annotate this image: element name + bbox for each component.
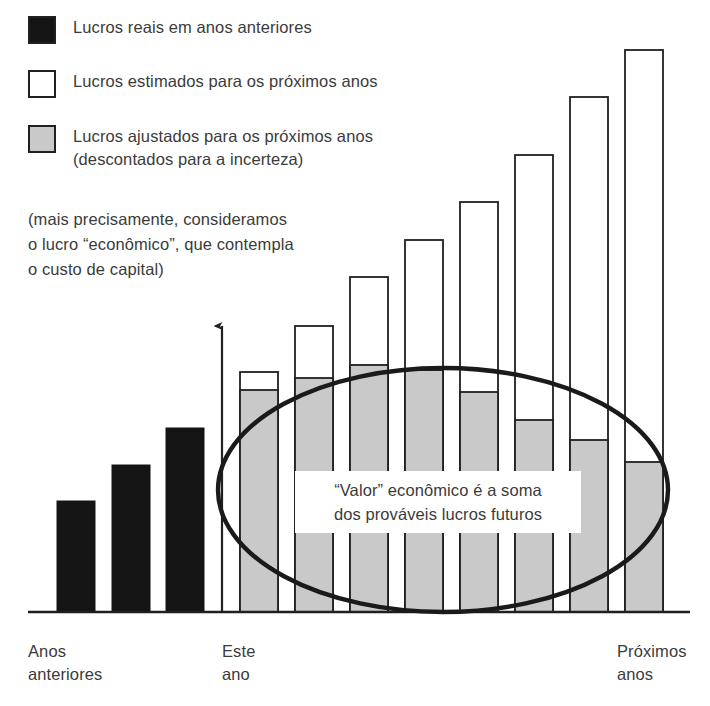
bar-past-2 [166, 428, 204, 612]
bar-past-0 [57, 501, 95, 612]
chart-area: “Valor” econômico é a soma dos prováveis… [0, 0, 710, 706]
figure-root: Lucros reais em anos anteriores Lucros e… [0, 0, 710, 706]
axis-label-this-year: Este ano [222, 640, 255, 686]
axis-label-past-years: Anos anteriores [28, 640, 102, 686]
bar-adjusted-0 [240, 390, 278, 612]
annotation-text: “Valor” econômico é a soma dos prováveis… [334, 478, 542, 526]
chart-svg [0, 0, 710, 706]
bar-past-1 [112, 465, 150, 612]
axis-label-next-years: Próximos anos [617, 640, 687, 686]
bar-adjusted-7 [625, 462, 663, 612]
annotation-callout: “Valor” econômico é a soma dos prováveis… [295, 471, 581, 533]
past-bars-group [57, 428, 204, 612]
